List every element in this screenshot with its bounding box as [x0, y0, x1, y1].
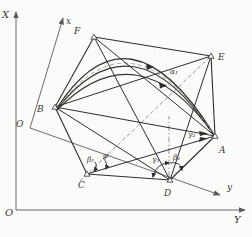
angle-arc-gamma1: [153, 163, 169, 177]
edge-dc-line: [87, 174, 170, 180]
angle-arrow-gamma2-lower: [199, 137, 208, 142]
point-e-label: E: [217, 52, 225, 62]
edge-fe-line: [94, 37, 211, 56]
dashed-line-ce: [80, 56, 211, 181]
x-axis-fixed-label: X: [1, 9, 10, 20]
point-b-label: B: [36, 104, 44, 114]
origin-moving-label: O: [16, 119, 24, 129]
angle-beta2-label: β₂: [172, 153, 180, 162]
angle-arc-beta2: [170, 163, 182, 170]
angle-gamma2-label: γ₂: [188, 130, 196, 139]
point-f-label: F: [73, 26, 81, 36]
diagonal-fa-line: [94, 37, 215, 136]
y-axis-moving-label: y: [226, 182, 233, 192]
angle-phi-label: φ: [103, 151, 109, 160]
figure-svg: X Y O x y O B F E A D C α₁ β₁ φ γ₁ β₂ γ₂: [0, 0, 252, 237]
edge-ea-line: [211, 56, 215, 136]
angle-alpha1-label: α₁: [170, 67, 178, 76]
point-c-label: C: [78, 180, 85, 190]
angle-arrow-gamma2-upper: [199, 131, 208, 136]
angle-beta1-label: β₁: [86, 155, 94, 164]
point-d-label: D: [163, 188, 171, 198]
y-axis-fixed-label: Y: [234, 214, 242, 225]
x-axis-moving-label: x: [66, 16, 71, 26]
angle-gamma1-label: γ₁: [152, 155, 160, 164]
vertex-marker-f: [91, 34, 97, 39]
point-a-label: A: [218, 145, 226, 155]
x-axis-moving: [30, 18, 63, 128]
geometry-figure: X Y O x y O B F E A D C α₁ β₁ φ γ₁ β₂ γ₂: [0, 0, 252, 237]
angle-arrow-alpha1-b: [159, 82, 167, 89]
origin-fixed-label: O: [5, 207, 13, 218]
